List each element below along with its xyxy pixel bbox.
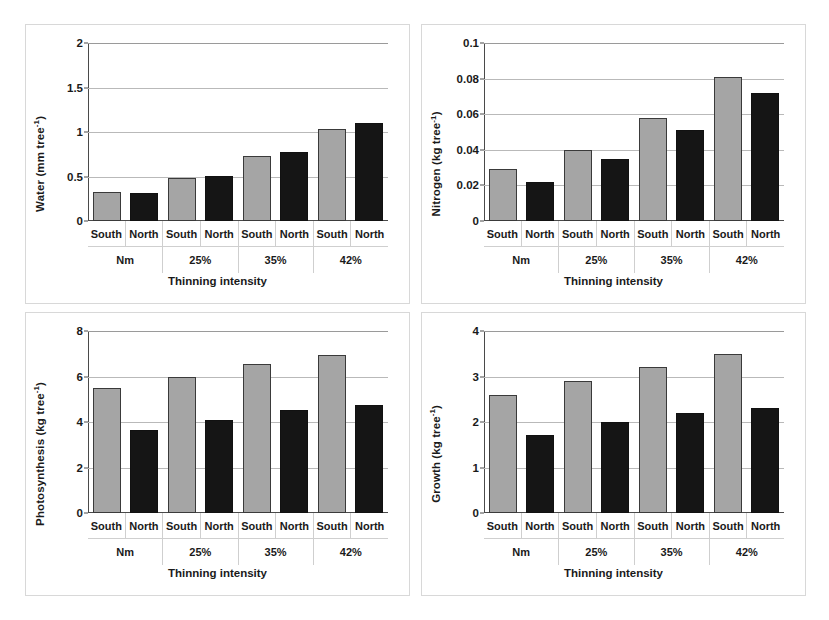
x-axis-subcategory-label: North xyxy=(521,513,559,538)
x-axis-subcategory-label: South xyxy=(484,513,521,538)
bar-south xyxy=(564,381,592,513)
x-axis-subcategory-label: North xyxy=(746,513,784,538)
x-axis-subcategory-label: North xyxy=(200,513,238,538)
x-axis-subcategory-row: SouthNorthSouthNorthSouthNorthSouthNorth xyxy=(88,513,388,539)
x-axis-group-row: Nm25%35%42% xyxy=(88,539,388,565)
bar-north xyxy=(751,408,779,513)
x-axis-group-row: Nm25%35%42% xyxy=(484,247,784,273)
x-axis-subcategory-label: North xyxy=(521,221,559,246)
x-axis-group-label: Nm xyxy=(88,247,162,273)
y-axis-title-tail: ) xyxy=(430,112,442,116)
x-axis-group-label: 42% xyxy=(313,539,388,565)
x-axis-group-label: 35% xyxy=(634,247,709,273)
y-axis-tick-label: 0 xyxy=(473,215,479,227)
x-axis-group-label: 35% xyxy=(634,539,709,565)
x-axis-subcategory-label: South xyxy=(313,513,351,538)
bar-series-group xyxy=(484,331,784,513)
bar-north xyxy=(601,159,629,221)
y-axis-title: Growth (kg tree-1) xyxy=(424,313,446,595)
y-axis-tick-label: 1 xyxy=(77,126,83,138)
bar-south xyxy=(639,118,667,221)
bar-south xyxy=(564,150,592,221)
bar-series-group xyxy=(88,331,388,513)
y-axis-tick-label: 1.5 xyxy=(67,82,83,94)
x-axis-subcategory-label: South xyxy=(238,221,276,246)
x-axis-subcategory-row: SouthNorthSouthNorthSouthNorthSouthNorth xyxy=(484,513,784,539)
y-axis-title: Water (mm tree-1) xyxy=(28,25,50,303)
x-axis-group-label: 25% xyxy=(162,539,237,565)
bar-north xyxy=(280,410,308,514)
y-axis-tick-label: 0.1 xyxy=(463,37,479,49)
x-axis-subcategory-label: North xyxy=(125,513,163,538)
y-axis-title-superscript: -1 xyxy=(428,409,437,416)
x-axis-subcategory-label: North xyxy=(350,221,388,246)
y-axis-tick-label: 2 xyxy=(473,416,479,428)
bar-south xyxy=(93,388,121,513)
x-axis-subcategory-label: South xyxy=(709,221,747,246)
x-axis-subcategory-row: SouthNorthSouthNorthSouthNorthSouthNorth xyxy=(484,221,784,247)
bar-north xyxy=(280,152,308,221)
y-axis-tick-label: 0.5 xyxy=(67,171,83,183)
y-axis-tick-label: 4 xyxy=(77,416,83,428)
y-axis-tick-label: 6 xyxy=(77,371,83,383)
x-axis-group-label: 35% xyxy=(238,539,313,565)
y-axis-tick-label: 3 xyxy=(473,371,479,383)
bar-south xyxy=(489,395,517,513)
bar-north xyxy=(526,435,554,513)
y-axis-tick-label: 1 xyxy=(473,462,479,474)
bar-north xyxy=(130,430,158,513)
bar-south xyxy=(639,367,667,513)
bar-north xyxy=(355,123,383,221)
x-axis-title: Thinning intensity xyxy=(26,275,409,287)
y-axis-title-tail: ) xyxy=(34,382,46,386)
chart-panel-top-left: Water (mm tree-1)00.511.52SouthNorthSout… xyxy=(25,24,410,304)
plot-area: 00.511.52 xyxy=(88,43,388,221)
y-axis-tick-label: 4 xyxy=(473,325,479,337)
x-axis-subcategory-label: South xyxy=(88,513,125,538)
bar-north xyxy=(205,176,233,221)
y-axis-title-text: Nitrogen (kg tree xyxy=(430,123,442,217)
plot-area: 02468 xyxy=(88,331,388,513)
x-axis-title: Thinning intensity xyxy=(422,275,805,287)
bar-south xyxy=(714,77,742,221)
x-axis-subcategory-label: North xyxy=(671,513,709,538)
x-axis-group-label: 25% xyxy=(162,247,237,273)
y-axis-title-tail: ) xyxy=(430,405,442,409)
x-axis-subcategory-label: South xyxy=(558,513,596,538)
x-axis-subcategory-label: North xyxy=(596,513,634,538)
chart-panel-bottom-left: Photosynthesis (kg tree-1)02468SouthNort… xyxy=(25,312,410,596)
x-axis-title: Thinning intensity xyxy=(26,567,409,579)
x-axis-subcategory-label: North xyxy=(746,221,784,246)
chart-panel-bottom-right: Growth (kg tree-1)01234SouthNorthSouthNo… xyxy=(421,312,806,596)
x-axis-group-label: Nm xyxy=(484,247,558,273)
bar-north xyxy=(676,130,704,221)
y-axis-tick-label: 0.08 xyxy=(457,73,479,85)
bar-south xyxy=(243,364,271,513)
bar-north xyxy=(601,422,629,513)
x-axis-subcategory-label: South xyxy=(484,221,521,246)
bar-south xyxy=(168,377,196,514)
x-axis-subcategory-label: South xyxy=(88,221,125,246)
x-axis-subcategory-label: South xyxy=(162,221,200,246)
x-axis-subcategory-label: North xyxy=(275,513,313,538)
x-axis-subcategory-label: South xyxy=(558,221,596,246)
y-axis-title-superscript: -1 xyxy=(428,115,437,122)
y-axis-tick-label: 0.06 xyxy=(457,108,479,120)
x-axis-subcategory-label: South xyxy=(634,513,672,538)
bar-north xyxy=(676,413,704,513)
bar-north xyxy=(751,93,779,221)
x-axis-group-label: Nm xyxy=(88,539,162,565)
plot-area: 01234 xyxy=(484,331,784,513)
x-axis-subcategory-label: North xyxy=(671,221,709,246)
x-axis-subcategory-label: South xyxy=(709,513,747,538)
bar-south xyxy=(714,354,742,513)
x-axis-subcategory-label: North xyxy=(125,221,163,246)
y-axis-title-text: Growth (kg tree xyxy=(430,416,442,502)
x-axis-subcategory-label: South xyxy=(634,221,672,246)
x-axis-subcategory-label: South xyxy=(238,513,276,538)
bar-north xyxy=(526,182,554,221)
bar-south xyxy=(318,129,346,221)
y-axis-title-superscript: -1 xyxy=(32,120,41,127)
bar-series-group xyxy=(484,43,784,221)
x-axis-subcategory-label: South xyxy=(162,513,200,538)
